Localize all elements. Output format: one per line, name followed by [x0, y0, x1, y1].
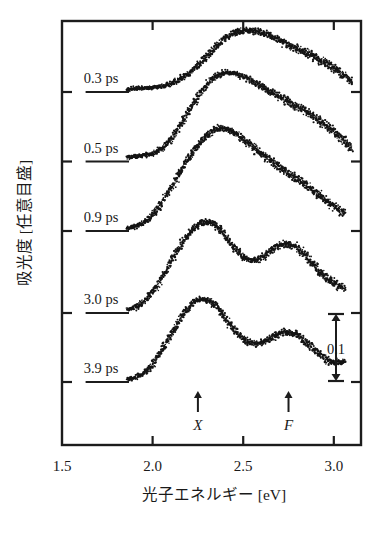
data-point — [304, 252, 306, 254]
data-point — [339, 70, 341, 72]
data-series — [125, 69, 353, 160]
data-point — [197, 145, 199, 147]
data-point — [341, 141, 343, 143]
data-point — [188, 113, 190, 115]
data-point — [187, 155, 189, 157]
series-label: 0.9 ps — [84, 209, 119, 225]
data-point — [152, 367, 154, 369]
data-point — [268, 93, 270, 95]
data-point — [153, 149, 155, 151]
data-point — [195, 66, 197, 68]
data-point — [232, 129, 234, 131]
data-point — [231, 322, 233, 324]
data-point — [331, 277, 333, 279]
data-point — [135, 374, 137, 376]
data-point — [255, 31, 257, 33]
data-point — [228, 321, 230, 323]
data-point — [337, 204, 339, 206]
data-point — [194, 229, 196, 231]
data-point — [270, 164, 272, 166]
data-point — [261, 344, 263, 346]
data-point — [283, 41, 284, 42]
data-point — [234, 325, 236, 327]
data-point — [277, 100, 279, 102]
data-point — [169, 194, 171, 196]
data-point — [209, 131, 211, 133]
data-point — [147, 367, 149, 369]
data-point — [273, 94, 275, 96]
data-point — [141, 220, 143, 222]
data-point — [202, 137, 204, 139]
data-point — [160, 201, 162, 203]
data-point — [157, 283, 159, 285]
data-point — [342, 71, 344, 73]
data-point — [192, 154, 194, 156]
peak-arrow-icon — [194, 391, 202, 398]
data-point — [226, 317, 228, 319]
spectra-chart: 0.3 ps0.5 ps0.9 ps3.0 ps3.9 ps 1.52.02.5… — [0, 0, 389, 533]
data-point — [198, 66, 200, 68]
data-point — [239, 78, 241, 80]
data-point — [319, 126, 321, 128]
data-point — [256, 346, 258, 348]
data-point — [229, 317, 231, 319]
data-point — [334, 66, 336, 68]
data-point — [350, 147, 352, 149]
data-point — [311, 186, 313, 188]
data-point — [162, 150, 163, 151]
data-point — [298, 52, 300, 54]
data-point — [167, 338, 169, 340]
data-point — [329, 204, 331, 206]
data-point — [173, 83, 175, 85]
data-point — [313, 117, 315, 119]
data-point — [169, 338, 171, 340]
data-point — [296, 241, 298, 243]
data-point — [267, 251, 269, 253]
data-point — [266, 155, 268, 157]
data-point — [262, 156, 264, 158]
data-point — [334, 128, 336, 130]
data-point — [215, 79, 216, 80]
data-point — [171, 190, 173, 192]
data-point — [273, 92, 275, 94]
data-point — [262, 83, 264, 85]
data-point — [259, 261, 261, 263]
data-point — [181, 237, 183, 239]
data-series — [126, 218, 347, 311]
data-point — [305, 180, 307, 182]
data-point — [178, 322, 180, 324]
data-point — [324, 197, 326, 199]
data-point — [131, 155, 133, 157]
data-point — [191, 227, 193, 229]
data-point — [192, 305, 194, 307]
data-point — [299, 254, 301, 256]
series-label: 3.9 ps — [84, 360, 119, 376]
data-point — [330, 63, 332, 65]
data-point — [229, 239, 231, 241]
data-point — [173, 133, 175, 135]
data-point — [326, 121, 328, 123]
data-series-layer — [125, 26, 353, 381]
data-point — [286, 45, 287, 46]
data-point — [189, 310, 191, 312]
data-point — [132, 85, 134, 87]
data-point — [236, 247, 238, 249]
data-point — [221, 69, 223, 71]
data-point — [332, 210, 334, 212]
data-point — [345, 71, 347, 73]
data-point — [240, 27, 242, 29]
data-point — [275, 336, 277, 338]
data-point — [308, 189, 310, 191]
data-point — [330, 363, 332, 365]
data-point — [334, 64, 336, 66]
data-point — [168, 85, 170, 87]
data-point — [185, 158, 187, 160]
data-point — [162, 194, 164, 196]
data-point — [129, 91, 131, 93]
data-point — [190, 234, 192, 236]
data-point — [215, 48, 217, 50]
data-point — [344, 209, 346, 211]
data-point — [235, 135, 237, 137]
data-point — [310, 259, 312, 261]
data-point — [343, 285, 345, 287]
